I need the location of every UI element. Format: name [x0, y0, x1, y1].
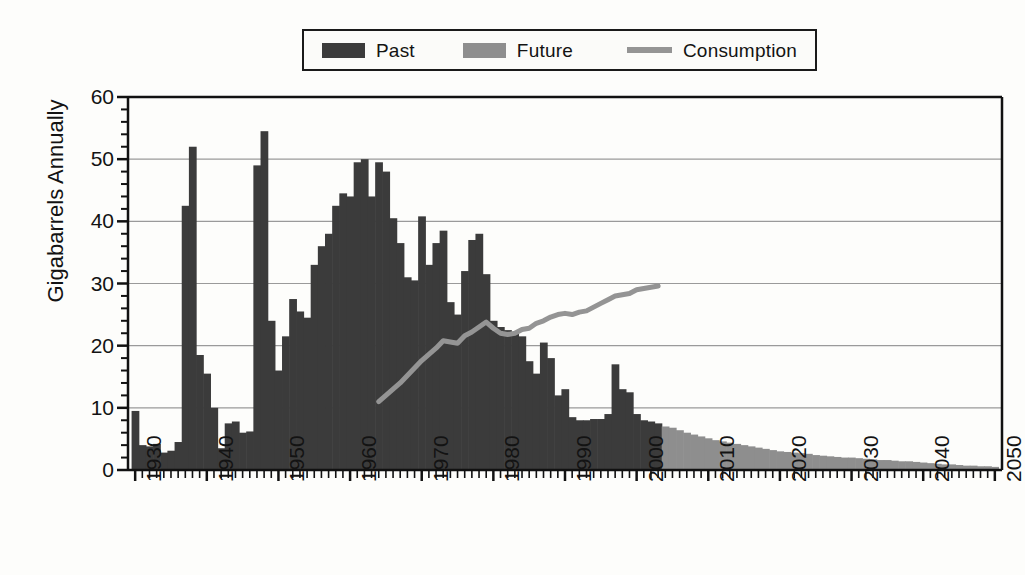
x-tick-label: 2000: [645, 435, 666, 482]
bar: [626, 392, 634, 470]
bar: [619, 389, 627, 470]
bar: [698, 436, 706, 470]
bar: [246, 431, 254, 470]
bar: [189, 147, 197, 470]
x-tick-label: 2020: [788, 435, 809, 482]
bar: [339, 193, 347, 470]
bar: [311, 265, 319, 470]
bar: [347, 196, 355, 470]
bar: [841, 458, 849, 470]
bar: [382, 172, 390, 470]
bar: [196, 355, 204, 470]
bar: [776, 451, 784, 470]
bar: [332, 206, 340, 470]
y-tick-label: 60: [70, 86, 114, 107]
bar: [612, 364, 620, 470]
bar: [397, 243, 405, 470]
bar: [418, 216, 426, 470]
bar: [318, 246, 326, 470]
bar: [690, 435, 698, 470]
x-tick-label: 2050: [1003, 435, 1024, 482]
bar: [540, 343, 548, 470]
bars-past-series: [132, 131, 663, 470]
bar: [633, 414, 641, 470]
bar: [440, 231, 448, 470]
bar: [741, 445, 749, 470]
x-tick-label: 2040: [931, 435, 952, 482]
bar: [132, 411, 140, 470]
bar: [554, 395, 562, 470]
x-tick-label: 1970: [430, 435, 451, 482]
bar: [361, 159, 369, 470]
bar: [167, 451, 175, 470]
bar: [676, 430, 684, 470]
bar: [834, 457, 842, 470]
bar: [325, 234, 333, 470]
bar: [268, 321, 276, 470]
bar: [533, 374, 541, 470]
bar: [275, 371, 283, 470]
bar: [490, 321, 498, 470]
bar: [526, 361, 534, 470]
bar: [848, 458, 856, 470]
y-tick-label: 30: [70, 273, 114, 294]
x-tick-label: 1960: [358, 435, 379, 482]
bar: [748, 446, 756, 470]
y-tick-label: 0: [70, 459, 114, 480]
x-tick-label: 2010: [716, 435, 737, 482]
bar: [819, 456, 827, 470]
x-tick-label: 1950: [286, 435, 307, 482]
bar: [182, 206, 190, 470]
bar: [891, 461, 899, 470]
bar: [769, 450, 777, 470]
bar: [762, 449, 770, 470]
bar: [203, 374, 211, 470]
bar: [389, 218, 397, 470]
bar: [261, 131, 269, 470]
x-tick-label: 1990: [573, 435, 594, 482]
bar: [468, 240, 476, 470]
bar: [411, 280, 419, 470]
bar: [884, 460, 892, 470]
bar: [898, 461, 906, 470]
bar: [547, 358, 555, 470]
x-tick-label: 1980: [501, 435, 522, 482]
bar: [461, 271, 469, 470]
x-tick-label: 2030: [860, 435, 881, 482]
bar: [669, 428, 677, 470]
bar: [368, 196, 376, 470]
y-tick-label: 10: [70, 397, 114, 418]
bar: [561, 389, 569, 470]
bar: [597, 419, 605, 470]
bar: [905, 461, 913, 470]
bar: [375, 162, 383, 470]
y-tick-label: 20: [70, 335, 114, 356]
bar: [826, 456, 834, 470]
bar: [604, 414, 612, 470]
bar: [812, 455, 820, 470]
bar: [483, 274, 491, 470]
bar: [755, 448, 763, 470]
x-tick-label: 1930: [143, 435, 164, 482]
y-tick-label: 50: [70, 148, 114, 169]
y-tick-label: 40: [70, 210, 114, 231]
x-tick-label: 1940: [215, 435, 236, 482]
bar: [705, 438, 713, 470]
bar: [239, 433, 247, 470]
bar: [175, 442, 183, 470]
bar: [683, 433, 691, 470]
bar: [475, 234, 483, 470]
bar: [354, 162, 362, 470]
bar: [253, 165, 261, 470]
